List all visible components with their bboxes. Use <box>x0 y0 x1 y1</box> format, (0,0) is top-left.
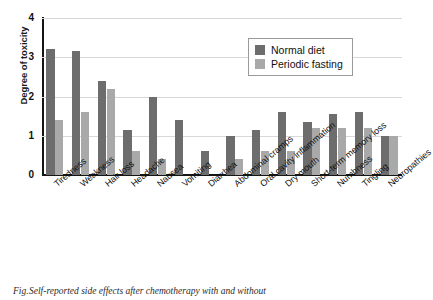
bar-group <box>68 18 94 175</box>
bar-chart: Degree of toxicity 01234 TirednessWeakne… <box>0 0 415 195</box>
y-axis-tick-label: 0 <box>0 170 34 180</box>
bar-group <box>119 18 145 175</box>
bar-group <box>196 18 222 175</box>
bar-group <box>93 18 119 175</box>
bar-group <box>42 18 68 175</box>
y-axis-tick-label: 1 <box>0 131 34 141</box>
bar-group <box>376 18 402 175</box>
legend-label-normal-diet: Normal diet <box>271 45 325 56</box>
legend-swatch-periodic-fasting <box>255 59 265 69</box>
bar-periodic-fasting <box>389 136 397 175</box>
legend-swatch-normal-diet <box>255 45 265 55</box>
bar-group <box>171 18 197 175</box>
legend-label-periodic-fasting: Periodic fasting <box>271 59 343 70</box>
y-axis-tick-label: 4 <box>0 13 34 23</box>
y-axis-tick-label: 3 <box>0 52 34 62</box>
legend-item-periodic-fasting: Periodic fasting <box>255 57 343 71</box>
bar-periodic-fasting <box>55 120 63 175</box>
bar-normal-diet <box>46 49 54 175</box>
chart-legend: Normal diet Periodic fasting <box>248 38 353 76</box>
legend-item-normal-diet: Normal diet <box>255 43 343 57</box>
caption-text: Self-reported side effects after chemoth… <box>29 286 266 296</box>
bar-group <box>222 18 248 175</box>
bar-group <box>145 18 171 175</box>
caption-marker: Fig. <box>13 286 29 296</box>
y-axis-tick-label: 2 <box>0 92 34 102</box>
y-axis-title: Degree of toxicity <box>18 6 29 126</box>
figure-caption: Fig.Self-reported side effects after che… <box>13 286 413 296</box>
bar-normal-diet <box>72 51 80 175</box>
